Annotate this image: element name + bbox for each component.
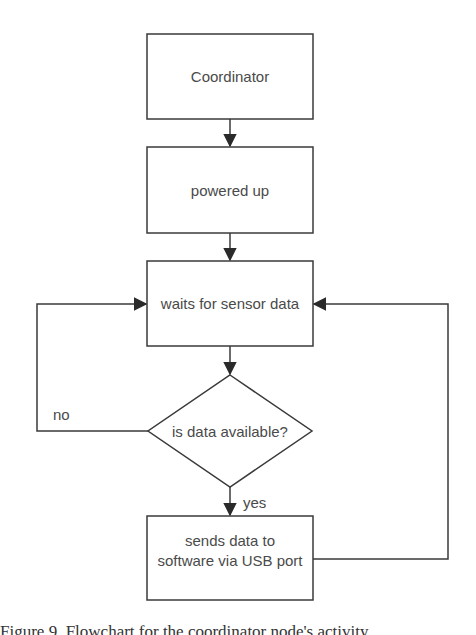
node-waits-for-sensor-data: waits for sensor data <box>147 261 313 346</box>
node-waits-label: waits for sensor data <box>160 295 300 312</box>
figure-caption: Figure 9. Flowchart for the coordinator … <box>0 622 476 635</box>
edge-label-yes: yes <box>243 494 266 511</box>
node-powered-up: powered up <box>147 147 313 233</box>
node-sends-data: sends data to software via USB port <box>147 516 313 600</box>
edge-sends-data-loop-back <box>313 304 448 559</box>
node-sends-data-line-2: software via USB port <box>157 552 303 569</box>
node-decision-data-available: is data available? <box>148 375 312 487</box>
node-powered-up-label: powered up <box>191 182 269 199</box>
figure-caption-text: Figure 9. Flowchart for the coordinator … <box>0 622 476 635</box>
node-coordinator: Coordinator <box>147 34 313 119</box>
node-sends-data-line-1: sends data to <box>185 532 275 549</box>
edge-label-no: no <box>53 406 70 423</box>
node-coordinator-label: Coordinator <box>191 68 269 85</box>
node-decision-label: is data available? <box>172 423 288 440</box>
flowchart: Coordinator powered up waits for sensor … <box>0 0 476 635</box>
